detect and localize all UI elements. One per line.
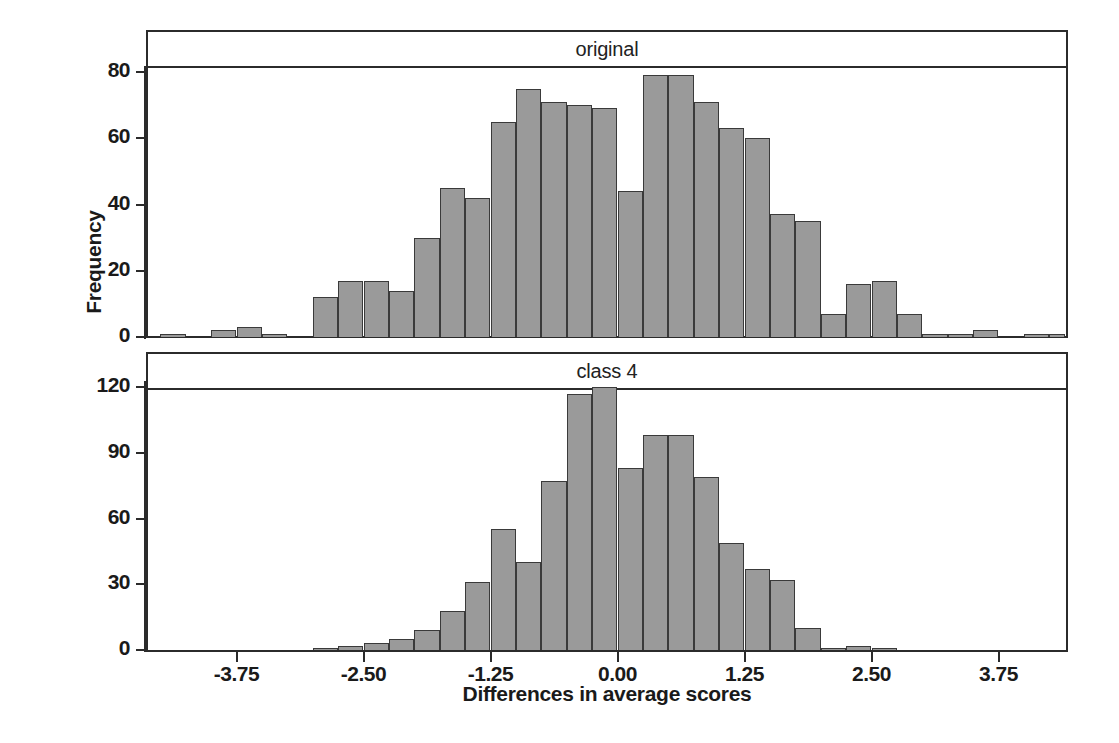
histogram-bar (668, 75, 693, 337)
y-axis-tick-label: 60 (50, 124, 130, 148)
y-axis-tick-label: 80 (50, 58, 130, 82)
x-axis-tick (617, 652, 619, 662)
histogram-bar (491, 122, 516, 337)
histogram-bar (389, 291, 414, 337)
histogram-bar (465, 198, 490, 337)
histogram-bar (541, 481, 566, 650)
histogram-bar (592, 387, 617, 650)
y-axis-tick (136, 204, 145, 206)
y-axis-tick-label: 120 (50, 373, 130, 397)
panel-strip-label: original (576, 38, 639, 61)
y-axis-tick-label: 0 (50, 636, 130, 660)
histogram-bar (262, 334, 287, 337)
histogram-bar (770, 580, 795, 650)
y-axis-tick (136, 137, 145, 139)
histogram-bar (897, 314, 922, 337)
histogram-bar (541, 102, 566, 337)
histogram-bar (973, 330, 998, 337)
x-axis-tick-label: 3.75 (944, 662, 1054, 686)
y-axis-tick-label: 90 (50, 439, 130, 463)
histogram-bar (516, 562, 541, 650)
histogram-bar (465, 582, 490, 650)
panel-strip-label: class 4 (577, 360, 638, 383)
y-axis-tick (136, 583, 145, 585)
histogram-bar (618, 468, 643, 650)
histogram-bar (846, 646, 871, 650)
y-axis-tick-label: 60 (50, 505, 130, 529)
histogram-bar (922, 334, 947, 337)
y-axis-tick (136, 386, 145, 388)
x-axis-tick-label: 0.00 (563, 662, 673, 686)
x-axis-tick (490, 652, 492, 662)
histogram-bar (948, 334, 973, 337)
histogram-bar (821, 314, 846, 337)
histogram-bar (694, 102, 719, 337)
histogram-bar (1049, 334, 1064, 337)
histogram-bar (770, 214, 795, 337)
y-axis-tick (136, 270, 145, 272)
histogram-bar (592, 108, 617, 337)
histogram-figure: Frequency Differences in average scores … (0, 0, 1119, 743)
histogram-bar (313, 297, 338, 337)
plot-area-original (148, 68, 1066, 336)
histogram-bar (643, 435, 668, 650)
histogram-bar (795, 221, 820, 337)
histogram-bar (1024, 334, 1049, 337)
y-axis-tick (136, 452, 145, 454)
histogram-bar (313, 648, 338, 651)
x-axis-tick-label: 1.25 (690, 662, 800, 686)
histogram-bar (440, 611, 465, 650)
histogram-bar (745, 138, 770, 337)
x-axis-tick-label: -2.50 (309, 662, 419, 686)
histogram-bar (745, 569, 770, 650)
histogram-bar (211, 330, 236, 337)
y-axis-tick-label: 0 (50, 323, 130, 347)
histogram-bar (694, 477, 719, 650)
y-axis-tick-label: 40 (50, 191, 130, 215)
y-axis-tick (136, 336, 145, 338)
histogram-bar (491, 529, 516, 650)
histogram-bar (618, 191, 643, 337)
x-axis-tick (363, 652, 365, 662)
y-axis-tick (136, 71, 145, 73)
y-axis-line (144, 381, 146, 652)
y-axis-tick (136, 518, 145, 520)
x-axis-tick (744, 652, 746, 662)
histogram-bar (338, 646, 363, 650)
histogram-bar (160, 334, 185, 337)
histogram-bar (414, 630, 439, 650)
y-axis-tick (136, 649, 145, 651)
y-axis-tick-label: 20 (50, 257, 130, 281)
histogram-bar (643, 75, 668, 337)
histogram-bar (846, 284, 871, 337)
histogram-bar (795, 628, 820, 650)
histogram-bar (821, 648, 846, 651)
histogram-bar (237, 327, 262, 337)
histogram-bar (872, 648, 897, 651)
histogram-bar (414, 238, 439, 337)
histogram-bar (668, 435, 693, 650)
histogram-bar (389, 639, 414, 650)
histogram-bar (872, 281, 897, 337)
histogram-bar (364, 281, 389, 337)
plot-area-class4 (148, 390, 1066, 650)
histogram-bar (719, 543, 744, 650)
histogram-bar (567, 394, 592, 650)
panel-strip-class4: class 4 (146, 352, 1068, 388)
x-axis-tick (998, 652, 1000, 662)
panel-strip-original: original (146, 30, 1068, 66)
x-axis-tick-label: 2.50 (817, 662, 927, 686)
x-axis-tick (236, 652, 238, 662)
y-axis-tick-label: 30 (50, 570, 130, 594)
histogram-bar (719, 128, 744, 337)
histogram-bar (364, 643, 389, 650)
histogram-bar (516, 89, 541, 337)
x-axis-tick (871, 652, 873, 662)
y-axis-line (144, 66, 146, 339)
x-axis-tick-label: -3.75 (182, 662, 292, 686)
histogram-bar (567, 105, 592, 337)
x-axis-tick-label: -1.25 (436, 662, 546, 686)
histogram-bar (440, 188, 465, 337)
histogram-bar (338, 281, 363, 337)
